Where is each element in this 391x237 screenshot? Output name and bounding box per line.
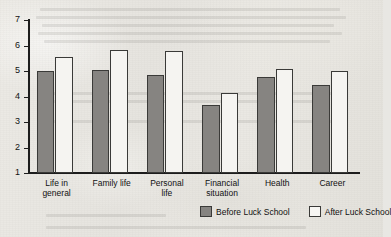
bar-before [37,71,55,173]
y-tick-label: 4 [6,92,20,101]
bar-after [110,50,128,173]
bar-before [92,70,110,173]
legend-label-after: After Luck School [325,207,391,217]
x-axis-line [28,172,360,174]
y-tick-mark [24,71,28,72]
y-tick-label: 7 [6,15,20,24]
bar-after [165,51,183,173]
category-label-line: Career [299,178,366,188]
y-tick-mark [24,97,28,98]
legend-item-before[interactable]: Before Luck School [200,206,290,217]
bar-after [221,93,239,173]
bar-before [312,85,330,173]
legend-item-after[interactable]: After Luck School [309,206,391,217]
y-tick-mark [24,20,28,21]
category-label-line: general [23,188,90,198]
y-tick-mark [24,46,28,47]
category-label: Career [299,178,366,188]
y-tick-mark [24,173,28,174]
y-tick-label: 5 [6,66,20,75]
legend-swatch-after-icon [309,206,321,217]
bar-before [202,105,220,173]
bar-after [276,69,294,173]
y-tick-mark [24,148,28,149]
legend-label-before: Before Luck School [216,207,290,217]
bar-before [147,75,165,173]
bar-after [55,57,73,173]
y-tick-mark [24,122,28,123]
category-label-line: situation [189,188,256,198]
y-tick-label: 2 [6,143,20,152]
y-tick-label: 1 [6,168,20,177]
bar-after [331,71,349,173]
chart-legend: Before Luck School After Luck School [200,206,391,217]
y-tick-label: 3 [6,117,20,126]
y-axis-line [28,19,30,173]
y-tick-label: 6 [6,41,20,50]
legend-swatch-before-icon [200,206,212,217]
bar-before [257,77,275,173]
